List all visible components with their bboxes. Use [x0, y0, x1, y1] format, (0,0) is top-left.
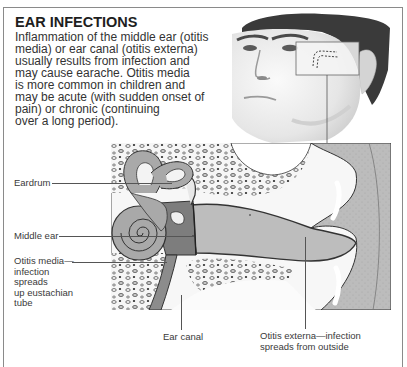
intro-paragraph: Inflammation of the middle ear (otitis m…	[15, 31, 205, 127]
label-ear-canal: Ear canal	[163, 332, 203, 343]
face-photo	[232, 10, 402, 145]
intro-line: over a long period).	[15, 115, 205, 127]
inset-box	[296, 42, 359, 75]
label-line: tube	[14, 298, 74, 309]
leader-otitis-media	[72, 262, 167, 263]
leader-middle-ear	[59, 236, 194, 237]
label-middle-ear: Middle ear	[14, 231, 58, 242]
label-line: spreads from outside	[260, 342, 361, 353]
leader-ear-canal	[181, 295, 182, 330]
label-line: spreads	[14, 277, 74, 288]
label-otitis-media: Otitis media— infection spreads up eusta…	[14, 256, 74, 309]
ear-cross-section	[111, 143, 391, 310]
leader-otitis-externa	[305, 237, 306, 329]
leader-eardrum	[52, 183, 172, 184]
label-eardrum: Eardrum	[14, 178, 50, 189]
figure-title: EAR INFECTIONS	[15, 14, 137, 30]
label-line: Otitis media—	[14, 256, 74, 267]
label-line: Otitis externa—infection	[260, 331, 361, 342]
label-otitis-externa: Otitis externa—infection spreads from ou…	[260, 331, 361, 352]
